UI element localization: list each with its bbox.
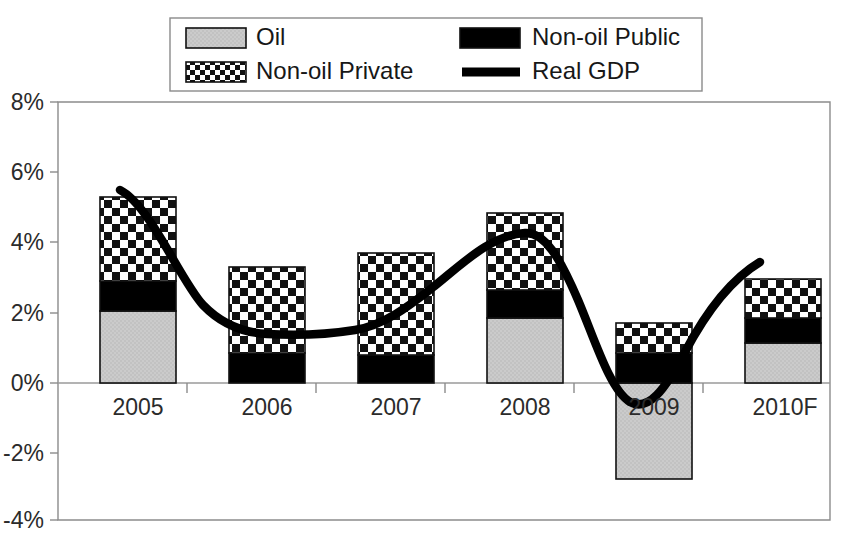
y-tick-label-8: 8% xyxy=(11,89,44,115)
y-tick-label-0: 0% xyxy=(11,370,44,396)
legend-label-non-oil-public: Non-oil Public xyxy=(532,23,680,50)
chart-legend: Oil Non-oil Public Non-oil Private Real … xyxy=(170,18,702,91)
bar-group-2010F xyxy=(745,279,821,383)
y-tick-label-neg2: -2% xyxy=(3,440,44,466)
bar-segment-non-oil-public-2010F xyxy=(745,318,821,343)
legend-swatch-oil xyxy=(186,28,246,48)
bar-segment-oil-2010F xyxy=(745,343,821,383)
y-tick-label-2: 2% xyxy=(11,300,44,326)
bar-segment-non-oil-public-2008 xyxy=(487,290,563,318)
x-tick-label-2009: 2009 xyxy=(628,394,679,420)
chart-container: 8% 6% 4% 2% 0% -2% -4% xyxy=(0,0,849,555)
legend-label-real-gdp: Real GDP xyxy=(532,57,640,84)
bar-segment-non-oil-public-2005 xyxy=(100,281,176,311)
legend-label-non-oil-private: Non-oil Private xyxy=(256,57,413,84)
legend-swatch-non-oil-public xyxy=(460,28,520,48)
bar-group-2005 xyxy=(100,197,176,383)
y-tick-label-neg4: -4% xyxy=(3,507,44,533)
bar-segment-non-oil-private-2010F xyxy=(745,279,821,318)
x-tick-label-2010F: 2010F xyxy=(752,394,817,420)
legend-label-oil: Oil xyxy=(256,23,285,50)
x-tick-label-2005: 2005 xyxy=(112,394,163,420)
y-tick-label-6: 6% xyxy=(11,159,44,185)
legend-swatch-non-oil-private xyxy=(186,62,246,82)
x-tick-label-2007: 2007 xyxy=(370,394,421,420)
bar-segment-non-oil-private-2007 xyxy=(358,253,434,355)
x-tick-label-2008: 2008 xyxy=(499,394,550,420)
bar-segment-oil-2008 xyxy=(487,318,563,383)
y-axis-ticks xyxy=(50,102,58,520)
stacked-bar-chart: 8% 6% 4% 2% 0% -2% -4% xyxy=(0,0,849,555)
bar-segment-non-oil-public-2006 xyxy=(229,353,305,383)
bar-segment-non-oil-private-2009 xyxy=(616,323,692,353)
bar-segment-non-oil-public-2007 xyxy=(358,355,434,383)
bar-segment-non-oil-private-2006 xyxy=(229,267,305,353)
x-tick-label-2006: 2006 xyxy=(241,394,292,420)
y-tick-label-4: 4% xyxy=(11,229,44,255)
bar-segment-oil-2005 xyxy=(100,311,176,383)
